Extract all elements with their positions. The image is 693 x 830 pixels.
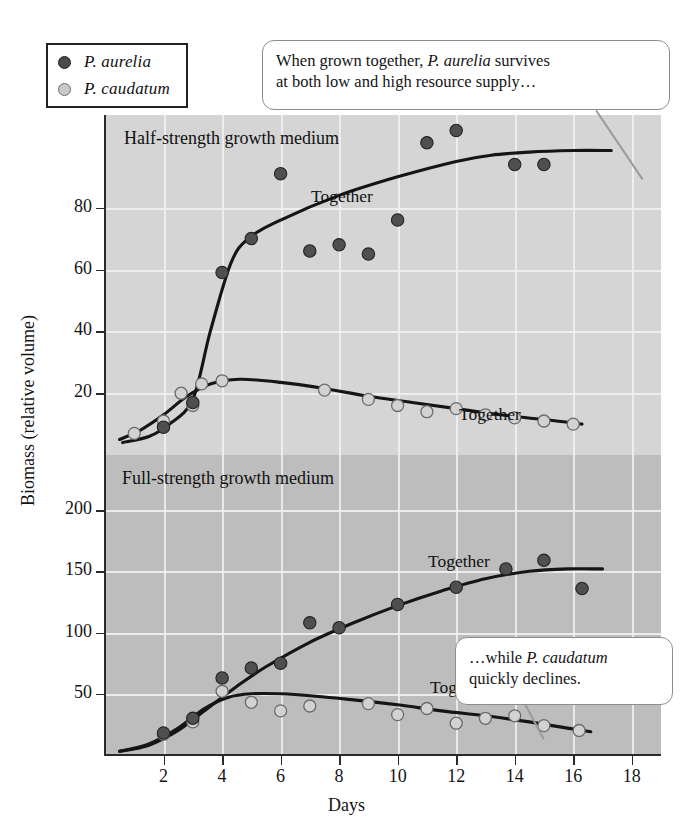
y-tick	[96, 571, 105, 573]
panel-lower-background	[105, 455, 661, 755]
x-tick-label: 8	[319, 766, 359, 787]
x-tick	[281, 756, 283, 765]
x-tick-label: 14	[495, 766, 535, 787]
callout-bottom: …while P. caudatum quickly declines.	[455, 637, 673, 705]
x-tick	[515, 756, 517, 765]
x-tick	[398, 756, 400, 765]
x-tick	[573, 756, 575, 765]
y-axis-title: Biomass (relative volume)	[18, 201, 39, 621]
gridline-vertical	[281, 115, 283, 755]
y-tick-label: 60	[38, 258, 92, 279]
x-tick-label: 12	[436, 766, 476, 787]
panel-title-lower: Full-strength growth medium	[122, 468, 334, 489]
callout-bottom-line1: …while P. caudatum	[469, 647, 659, 668]
gridline-horizontal	[105, 633, 661, 635]
x-tick-label: 4	[202, 766, 242, 787]
legend-label-p-aurelia: P. aurelia	[84, 52, 151, 72]
callout-top: When grown together, P. aurelia survives…	[262, 40, 670, 110]
gridline-vertical	[398, 115, 400, 755]
y-tick	[96, 270, 105, 272]
gridline-vertical	[222, 115, 224, 755]
legend-item-p-aurelia: P. aurelia	[58, 49, 151, 75]
x-tick-label: 6	[261, 766, 301, 787]
x-tick-label: 10	[378, 766, 418, 787]
x-tick	[339, 756, 341, 765]
gridline-vertical	[164, 115, 166, 755]
callout-bottom-line2: quickly declines.	[469, 668, 659, 689]
gridline-vertical	[339, 115, 341, 755]
gridline-horizontal	[105, 510, 661, 512]
x-tick	[456, 756, 458, 765]
x-tick	[164, 756, 166, 765]
y-tick-label: 150	[38, 559, 92, 580]
x-tick-label: 18	[612, 766, 652, 787]
y-tick	[96, 694, 105, 696]
y-tick-label: 40	[38, 319, 92, 340]
y-axis-line	[104, 115, 106, 756]
legend-item-p-caudatum: P. caudatum	[58, 76, 170, 102]
x-axis-line	[104, 754, 661, 756]
gridline-horizontal	[105, 393, 661, 395]
y-tick-label: 100	[38, 621, 92, 642]
callout-top-line2: at both low and high resource supply…	[276, 71, 656, 92]
gridline-horizontal	[105, 331, 661, 333]
y-tick	[96, 393, 105, 395]
open-light-circle-icon	[58, 83, 71, 96]
curve-label-upper-caudatum: Together	[459, 404, 521, 425]
y-tick-label: 50	[38, 682, 92, 703]
y-tick	[96, 331, 105, 333]
x-tick-label: 2	[144, 766, 184, 787]
legend: P. aurelia P. caudatum	[46, 43, 188, 108]
y-tick	[96, 633, 105, 635]
gridline-horizontal	[105, 270, 661, 272]
x-tick	[222, 756, 224, 765]
figure-root: P. aurelia P. caudatum When grown togeth…	[0, 0, 693, 830]
panel-title-upper: Half-strength growth medium	[124, 128, 339, 149]
curve-label-upper-aurelia: Together	[311, 186, 373, 207]
gridline-horizontal	[105, 571, 661, 573]
filled-dark-circle-icon	[58, 56, 71, 69]
x-axis-title: Days	[0, 795, 693, 816]
panel-upper-background	[105, 115, 661, 455]
y-tick-label: 20	[38, 381, 92, 402]
x-tick-label: 16	[553, 766, 593, 787]
x-tick	[632, 756, 634, 765]
gridline-horizontal	[105, 208, 661, 210]
y-tick-label: 80	[38, 196, 92, 217]
y-tick	[96, 510, 105, 512]
callout-top-line1: When grown together, P. aurelia survives	[276, 50, 656, 71]
y-tick-label: 200	[38, 498, 92, 519]
curve-label-lower-aurelia: Together	[428, 551, 490, 572]
y-tick	[96, 208, 105, 210]
legend-label-p-caudatum: P. caudatum	[84, 79, 170, 99]
